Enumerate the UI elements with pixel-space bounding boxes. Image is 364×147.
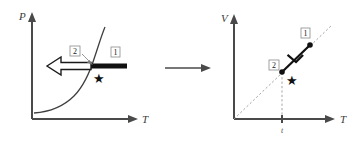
right-state-label-2: 2: [269, 60, 279, 70]
thermodynamics-figure: P T 2 1 ★: [0, 0, 364, 147]
left-state-label-1: 1: [111, 47, 120, 57]
left-state-label-1-text: 1: [114, 48, 118, 57]
right-y-axis: [230, 14, 238, 119]
right-star-marker: ★: [286, 73, 298, 88]
left-x-axis-label: T: [142, 113, 149, 125]
left-plot-pt-diagram: P T 2 1 ★: [18, 10, 149, 125]
left-x-axis: [32, 115, 138, 123]
right-state-label-2-text: 2: [272, 61, 276, 70]
x-tick-label-t: t: [281, 126, 284, 135]
right-y-axis-label: V: [221, 12, 229, 24]
right-state-label-1: 1: [301, 28, 310, 38]
state-point-1: [307, 42, 313, 48]
left-state-label-2: 2: [70, 46, 80, 56]
right-state-label-1-text: 1: [304, 29, 308, 38]
right-x-axis-label: T: [340, 113, 347, 125]
left-y-axis: [28, 12, 36, 119]
right-plot-vt-diagram: V T t 1 2 ★: [221, 12, 347, 135]
process-arrow-left: [47, 57, 91, 75]
left-state-label-2-text: 2: [73, 47, 77, 56]
left-star-marker: ★: [93, 71, 105, 86]
left-y-axis-label: P: [18, 10, 26, 22]
process-segment: [282, 45, 310, 72]
right-x-axis: [234, 115, 335, 123]
state-point-2: [279, 69, 285, 75]
implication-arrow: [165, 64, 211, 72]
